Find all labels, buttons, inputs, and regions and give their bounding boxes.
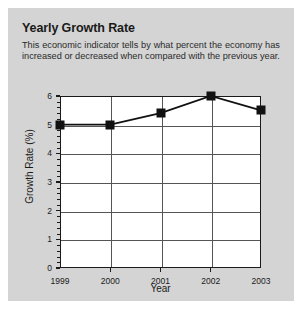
y-axis-title: Growth Rate (%): [24, 102, 35, 232]
x-axis-tick: [110, 268, 111, 272]
x-axis-tick: [210, 268, 211, 272]
data-point-marker: [56, 120, 65, 129]
x-axis-tick: [160, 268, 161, 272]
y-axis-tick-label: 6: [36, 91, 52, 101]
chart-panel: Yearly Growth Rate Thiseconomicindicator…: [8, 8, 294, 301]
data-point-marker: [156, 109, 165, 118]
data-series-line: [60, 96, 261, 268]
growth-rate-chart: 0123456 19992000200120022003 Year Growth…: [8, 70, 294, 301]
y-axis-tick-label: 1: [36, 234, 52, 244]
page-title: Yearly Growth Rate: [22, 21, 135, 35]
data-point-marker: [206, 92, 215, 101]
y-axis-tick-label: 3: [36, 177, 52, 187]
data-point-marker: [257, 106, 266, 115]
y-axis-tick-label: 4: [36, 148, 52, 158]
description-line-1: Thiseconomicindicatortellsbywhatpercentt…: [22, 40, 280, 51]
data-point-marker: [106, 120, 115, 129]
y-axis-tick-label: 2: [36, 206, 52, 216]
y-axis-tick-label: 0: [36, 263, 52, 273]
y-axis-tick-label: 5: [36, 120, 52, 130]
description-line-2: increased or decreased when compared wit…: [22, 51, 280, 62]
chart-description: Thiseconomicindicatortellsbywhatpercentt…: [22, 40, 280, 62]
x-axis-title: Year: [60, 283, 261, 294]
